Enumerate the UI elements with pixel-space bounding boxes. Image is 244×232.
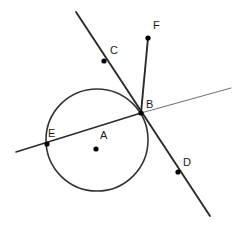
point-label-b: B xyxy=(146,98,153,110)
point-dot-e xyxy=(44,141,49,146)
point-label-e: E xyxy=(48,127,55,139)
geometry-diagram: A B C D E F xyxy=(0,0,244,232)
point-dot-c xyxy=(101,58,106,63)
secant-line-e-b xyxy=(16,113,141,152)
point-dot-b xyxy=(138,110,143,115)
point-label-a: A xyxy=(100,129,108,141)
point-dot-a xyxy=(93,146,98,151)
secant-line-right-of-b xyxy=(141,88,231,113)
point-dot-d xyxy=(175,169,180,174)
geometry-canvas: A B C D E F xyxy=(0,0,244,232)
point-label-d: D xyxy=(183,156,191,168)
point-dot-f xyxy=(145,35,150,40)
circle-shape-a xyxy=(46,89,148,191)
point-label-c: C xyxy=(110,44,118,56)
point-label-f: F xyxy=(153,19,160,31)
